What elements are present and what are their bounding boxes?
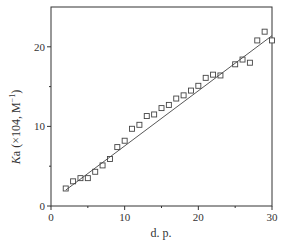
data-point <box>137 122 142 127</box>
data-point <box>255 38 260 43</box>
data-point <box>166 102 171 107</box>
x-axis-label: d. p. <box>151 226 172 240</box>
data-point <box>159 106 164 111</box>
data-point <box>188 88 193 93</box>
data-point <box>152 112 157 117</box>
data-point <box>130 126 135 131</box>
data-point <box>85 176 90 181</box>
data-point <box>144 114 149 119</box>
data-point <box>174 96 179 101</box>
data-point <box>270 38 275 43</box>
x-tick-label: 20 <box>193 211 205 223</box>
y-tick-label: 0 <box>40 200 46 212</box>
scatter-chart: 010203001020 d. p. Ka (×104, M−1) <box>0 0 284 247</box>
data-point <box>211 72 216 77</box>
x-tick-label: 0 <box>48 211 54 223</box>
data-point <box>93 169 98 174</box>
data-point <box>203 75 208 80</box>
data-point <box>196 83 201 88</box>
data-point <box>262 29 267 34</box>
data-point <box>181 93 186 98</box>
x-tick-label: 10 <box>119 211 131 223</box>
x-tick-label: 30 <box>267 211 279 223</box>
y-tick-label: 20 <box>34 41 46 53</box>
data-point <box>247 60 252 65</box>
y-tick-label: 10 <box>34 120 46 132</box>
y-axis-label: Ka (×104, M−1) <box>8 90 23 165</box>
data-points <box>63 29 274 191</box>
data-point <box>122 138 127 143</box>
fit-line <box>66 36 272 190</box>
data-point <box>115 145 120 150</box>
axis-ticks: 010203001020 <box>34 41 278 223</box>
